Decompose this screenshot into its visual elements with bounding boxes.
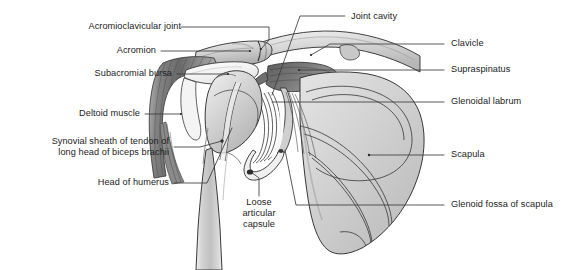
label-acromioclavicular-joint: Acromioclavicular joint [20,21,181,32]
label-acromion: Acromion [20,45,156,56]
scapula-bone [300,72,424,260]
dot-deltoid-muscle [180,113,182,115]
label-synovial-sheath-line2: long head of biceps brachii [8,147,169,158]
label-supraspinatus: Supraspinatus [451,64,575,75]
dot-acromion [249,50,251,52]
dot-supraspinatus [298,69,300,71]
dot-scapula [368,154,370,156]
label-deltoid-muscle: Deltoid muscle [20,108,140,119]
label-glenoidal-labrum: Glenoidal labrum [451,96,577,107]
label-head-of-humerus: Head of humerus [20,177,169,188]
label-synovial-sheath-line1: Synovial sheath of tendon of [8,136,169,147]
anatomy-figure: Acromioclavicular joint Acromion Subacro… [0,0,579,270]
dot-clavicle [310,54,312,56]
label-glenoid-fossa-of-scapula: Glenoid fossa of scapula [451,199,579,210]
label-loose-articular-capsule-line1: Loose [234,197,284,208]
label-subacromial-bursa: Subacromial bursa [20,68,172,79]
label-joint-cavity: Joint cavity [351,11,461,22]
dot-subacromial-bursa [227,73,229,75]
label-loose-articular-capsule-line2: articular [234,208,284,219]
label-clavicle: Clavicle [451,38,571,49]
label-loose-articular-capsule-line3: capsule [234,219,284,230]
label-scapula: Scapula [451,149,561,160]
dot-acromioclavicular-joint [260,48,262,50]
subdeltoid-bursa-extension [181,78,201,140]
